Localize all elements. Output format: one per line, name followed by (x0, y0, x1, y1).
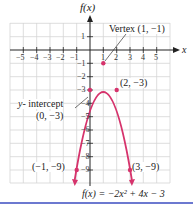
y-tick: −2 (77, 73, 86, 81)
y-intercept-point-label: (0, −3) (36, 111, 63, 121)
x-axis-label: x (182, 45, 186, 55)
x-axis-arrow-icon (173, 47, 180, 53)
vertex-label: Vertex (1, −1) (108, 24, 166, 34)
x-tick: 5 (154, 54, 158, 62)
y-tick: −5 (81, 113, 90, 121)
point-label-3-neg9: (3, −9) (132, 162, 159, 172)
y-tick: −3 (77, 86, 86, 94)
point-label-neg1-neg9: (−1, −9) (32, 162, 65, 172)
x-tick: −3 (43, 54, 52, 62)
x-tick: −2 (56, 54, 65, 62)
x-tick: −5 (16, 54, 25, 62)
x-tick: 2 (114, 54, 118, 62)
y-tick: 1 (81, 33, 85, 41)
x-tick: 3 (128, 54, 132, 62)
x-tick: 1 (101, 54, 105, 62)
y-axis-arrow-icon (87, 15, 93, 22)
point-label-2-neg3: (2, −3) (120, 78, 147, 88)
y-tick: −1 (77, 60, 86, 68)
x-tick: 4 (141, 54, 145, 62)
y-tick: −7 (81, 140, 90, 148)
y-tick: −6 (81, 126, 90, 134)
y-intercept-title: yy- intercept- intercept (18, 99, 63, 109)
y-axis-label: f(x) (80, 2, 95, 13)
equation-label: f(x) = −2x² + 4x − 3 (82, 189, 165, 199)
x-tick: −4 (30, 54, 39, 62)
y-tick: −4 (81, 100, 90, 108)
y-tick: −8 (81, 153, 90, 161)
y-tick: −9 (81, 166, 90, 174)
